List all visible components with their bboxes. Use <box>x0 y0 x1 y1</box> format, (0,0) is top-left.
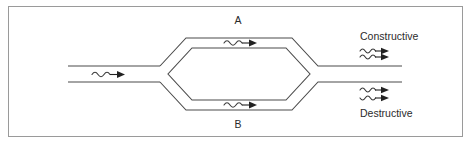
constructive-wave-1 <box>360 48 389 54</box>
figure-root: A B Constructive Destructive <box>0 0 472 145</box>
arrow-head-icon <box>117 71 125 78</box>
arrow-head-icon <box>381 54 389 60</box>
wavy-arrow-icon <box>224 41 242 46</box>
destructive-wave-arrows <box>360 87 389 101</box>
arrow-head-icon <box>249 40 257 47</box>
wavy-arrow-icon <box>360 55 376 59</box>
arrow-head-icon <box>381 95 389 101</box>
wavy-arrow-icon <box>224 103 242 108</box>
wavy-arrow-icon <box>360 49 376 53</box>
output-label-constructive: Constructive <box>360 30 419 42</box>
arm-label-a: A <box>234 14 241 26</box>
input-wave-arrow <box>92 71 125 78</box>
constructive-wave-2 <box>360 54 389 60</box>
arm-a-wave-arrow <box>224 40 257 47</box>
arrow-head-icon <box>381 48 389 54</box>
arm-label-b: B <box>234 118 241 130</box>
arrow-head-icon <box>249 102 257 109</box>
outer-path-bottom <box>160 82 402 110</box>
destructive-wave-1 <box>360 87 389 93</box>
arm-b-wave-arrow <box>224 102 257 109</box>
output-label-destructive: Destructive <box>360 107 413 119</box>
wavy-arrow-icon <box>360 96 376 100</box>
inner-hexagon <box>168 48 310 100</box>
outer-boundary-lower <box>160 82 402 110</box>
interferometer-diagram: A B Constructive Destructive <box>0 0 472 145</box>
inner-hexagon-path <box>168 48 310 100</box>
constructive-wave-arrows <box>360 48 389 60</box>
wavy-arrow-icon <box>92 72 110 77</box>
arrow-head-icon <box>381 87 389 93</box>
destructive-wave-2 <box>360 95 389 101</box>
wavy-arrow-icon <box>360 88 376 92</box>
